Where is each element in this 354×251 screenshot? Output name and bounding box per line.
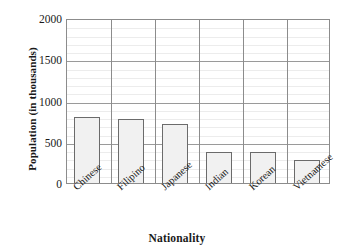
gridline-minor-horizontal [67,177,329,178]
category-separator-line [243,20,244,183]
y-tick-label-1000: 1000 [22,97,62,108]
y-tick-label-0: 0 [22,179,62,190]
gridline-minor-horizontal [67,94,329,95]
gridline-minor-horizontal [67,28,329,29]
x-axis-tick-labels: ChineseFilipinoJapaneseIndianKoreanVietn… [66,184,354,234]
gridline-minor-horizontal [67,111,329,112]
gridline-minor-horizontal [67,37,329,38]
y-tick-label-500: 500 [22,138,62,149]
category-separator-line [287,20,288,183]
gridline-minor-horizontal [67,169,329,170]
gridline-minor-horizontal [67,53,329,54]
gridline-major-horizontal [67,103,329,104]
gridline-minor-horizontal [67,119,329,120]
gridline-minor-horizontal [67,127,329,128]
category-separator-line [199,20,200,183]
bar-chart-figure: Population (in thousands) 05001000150020… [0,0,354,251]
category-separator-line [155,20,156,183]
gridline-minor-horizontal [67,136,329,137]
y-tick-label-2000: 2000 [22,14,62,25]
gridline-major-horizontal [67,61,329,62]
plot-area [66,19,330,184]
gridline-minor-horizontal [67,86,329,87]
gridline-minor-horizontal [67,160,329,161]
gridline-major-horizontal [67,144,329,145]
gridline-minor-horizontal [67,70,329,71]
category-separator-line [111,20,112,183]
gridline-minor-horizontal [67,152,329,153]
gridline-minor-horizontal [67,45,329,46]
y-tick-label-1500: 1500 [22,55,62,66]
x-axis-title: Nationality [0,232,354,244]
y-axis-tick-labels: 0500100015002000 [22,19,62,184]
gridline-minor-horizontal [67,78,329,79]
